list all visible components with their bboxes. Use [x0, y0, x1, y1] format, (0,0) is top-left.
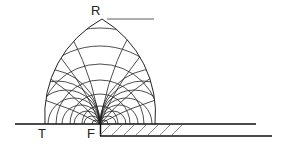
hatch-line [160, 125, 170, 135]
hatch-line [112, 125, 122, 135]
label-f: F [87, 127, 95, 140]
hatch-line [172, 125, 182, 135]
hatch-region [100, 125, 182, 135]
mesh-curve [0, 0, 103, 144]
hatch-line [100, 125, 110, 135]
label-t: T [38, 127, 46, 140]
hatch-line [148, 125, 158, 135]
mesh-grid [0, 0, 283, 144]
hatch-line [124, 125, 134, 135]
hatch-line [136, 125, 146, 135]
label-r: R [91, 4, 100, 17]
flow-net-diagram [0, 0, 283, 144]
mesh-curve [97, 0, 283, 144]
mesh-curve [81, 0, 283, 144]
